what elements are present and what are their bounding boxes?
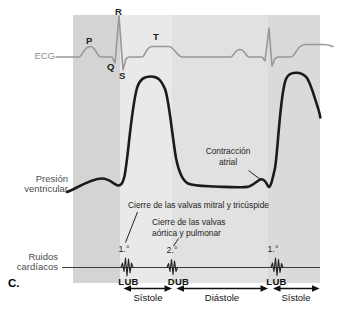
- heart-sounds-row-label: Ruidos cardíacos: [0, 252, 58, 272]
- ventricular-pressure-row-label: Presión ventricular: [0, 174, 68, 194]
- band-pre-systole: [73, 15, 120, 283]
- atrial-contraction-label: Contracción atrial: [197, 146, 259, 167]
- band-systole-1: [120, 15, 172, 283]
- pressure-label-line2: ventricular: [0, 184, 68, 194]
- dub-label: DUB: [158, 276, 199, 287]
- second-sound-ordinal: 2.°: [158, 245, 186, 255]
- third-sound-ordinal: 1.°: [259, 244, 287, 254]
- aortic-closure-line2: aórtica y pulmonar: [152, 228, 226, 239]
- q-wave-label: Q: [107, 61, 114, 72]
- cardiac-cycle-diagram: P R Q S T ECG Presión ventricular Ruidos…: [0, 0, 341, 320]
- p-wave-label: P: [86, 35, 92, 46]
- systole1-phase-label: Sístole: [118, 292, 178, 303]
- lub1-label: LUB: [108, 276, 149, 287]
- systole2-phase-label: Sístole: [266, 292, 326, 303]
- s-wave-label: S: [119, 70, 125, 81]
- lub2-label: LUB: [256, 276, 297, 287]
- mitral-tricuspid-closure-label: Cierre de las valvas mitral y tricúspide: [128, 200, 269, 211]
- t-wave-label: T: [153, 31, 159, 42]
- atrial-label-line1: Contracción: [197, 146, 259, 157]
- band-systole-2: [268, 15, 320, 283]
- aortic-pulmonary-closure-label: Cierre de las valvas aórtica y pulmonar: [152, 217, 226, 238]
- diastole-phase-label: Diástole: [192, 292, 252, 303]
- atrial-label-line2: atrial: [197, 157, 259, 168]
- aortic-closure-line1: Cierre de las valvas: [152, 217, 226, 228]
- ecg-row-label: ECG: [0, 51, 55, 61]
- r-wave-label: R: [115, 6, 122, 17]
- figure-letter-label: C.: [8, 277, 20, 289]
- sounds-label-line2: cardíacos: [0, 262, 58, 272]
- first-sound-ordinal: 1.°: [110, 244, 138, 254]
